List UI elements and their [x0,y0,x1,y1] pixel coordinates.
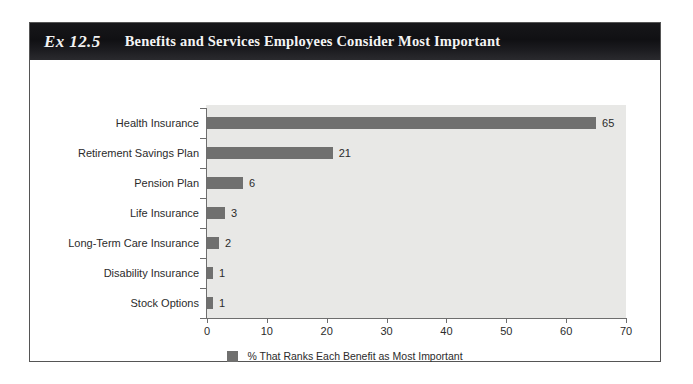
x-axis-tick [446,318,447,323]
x-axis-tick [387,318,388,323]
x-axis-line [200,318,627,319]
y-axis-tick [200,258,206,259]
y-axis-tick [200,228,206,229]
bar [207,237,219,249]
category-label: Retirement Savings Plan [0,138,199,168]
bar [207,117,596,129]
category-label: Stock Options [0,288,199,318]
bar-row: Life Insurance3 [30,198,660,228]
bar-value-label: 1 [213,297,225,309]
x-axis-tick-label: 40 [426,325,466,337]
exhibit-frame: Ex 12.5 Benefits and Services Employees … [29,22,661,362]
legend-swatch-icon [227,351,238,362]
bar-row: Pension Plan6 [30,168,660,198]
bar-row: Disability Insurance1 [30,258,660,288]
y-axis-tick [200,318,206,319]
bar [207,147,333,159]
chart-legend: % That Ranks Each Benefit as Most Import… [30,350,660,362]
category-label: Life Insurance [0,198,199,228]
bar-value-label: 1 [213,267,225,279]
y-axis-tick [200,108,206,109]
x-axis-tick [207,318,208,323]
bar-value-label: 21 [333,147,351,159]
category-label: Pension Plan [0,168,199,198]
bar-value-label: 3 [225,207,237,219]
bar-row: Stock Options1 [30,288,660,318]
x-axis-tick-label: 10 [247,325,287,337]
x-axis-tick-label: 70 [606,325,646,337]
x-axis-tick [626,318,627,323]
x-axis-tick-label: 20 [307,325,347,337]
x-axis-tick-label: 30 [367,325,407,337]
legend-label: % That Ranks Each Benefit as Most Import… [247,350,462,362]
chart-body: Health Insurance65Retirement Savings Pla… [30,60,660,361]
bar-row: Retirement Savings Plan21 [30,138,660,168]
bar-value-label: 6 [243,177,255,189]
x-axis-tick [506,318,507,323]
x-axis-tick [327,318,328,323]
category-label: Disability Insurance [0,258,199,288]
bar [207,177,243,189]
x-axis-tick [566,318,567,323]
y-axis-tick [200,198,206,199]
category-label: Health Insurance [0,108,199,138]
bar-value-label: 2 [219,237,231,249]
x-axis-tick-label: 50 [486,325,526,337]
exhibit-header: Ex 12.5 Benefits and Services Employees … [30,23,660,60]
exhibit-number: Ex 12.5 [44,32,101,52]
x-axis-tick-label: 0 [187,325,227,337]
category-label: Long-Term Care Insurance [0,228,199,258]
y-axis-tick [200,138,206,139]
exhibit-title: Benefits and Services Employees Consider… [125,33,501,50]
bar [207,207,225,219]
bar-row: Health Insurance65 [30,108,660,138]
x-axis-tick [267,318,268,323]
y-axis-tick [200,288,206,289]
y-axis-tick [200,168,206,169]
x-axis-tick-label: 60 [546,325,586,337]
bar-row: Long-Term Care Insurance2 [30,228,660,258]
bar-value-label: 65 [596,117,614,129]
